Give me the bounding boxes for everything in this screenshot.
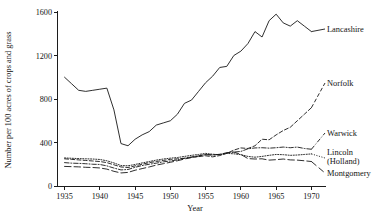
x-axis-title: Year [187,204,203,213]
series-label-warwick: Warwick [327,129,358,138]
x-tick-group: 19351940194519501955196019651970 [56,186,319,201]
y-tick-label: 1200 [36,52,52,61]
series-label-montgomery: Montgomery [327,169,372,178]
x-tick-label: 1945 [127,192,143,201]
x-tick-label: 1960 [233,192,249,201]
series-line-montgomery [65,152,312,173]
y-tick-label: 400 [40,139,52,148]
chart-container: Number per 100 acres of crops and grass … [0,0,390,217]
x-tick-label: 1935 [56,192,72,201]
y-tick-group: 040080012001600 [36,8,58,191]
line-chart: Number per 100 acres of crops and grass … [0,0,390,217]
x-tick-label: 1970 [303,192,319,201]
axes-group [58,11,327,186]
series-label-lancashire: Lancashire [327,25,364,34]
y-axis-title: Number per 100 acres of crops and grass [4,32,13,169]
series-label-lincoln-line2: (Holland) [327,157,360,166]
leader-line-warwick [311,133,325,149]
y-tick-label: 800 [40,95,52,104]
series-label-norfolk: Norfolk [327,79,354,88]
leader-lines-group [311,29,325,173]
x-tick-label: 1965 [268,192,284,201]
x-tick-label: 1950 [162,192,178,201]
leader-line-montgomery [311,162,325,173]
series-group [65,14,312,173]
y-tick-label: 1600 [36,8,52,17]
leader-line-lincoln [311,154,325,158]
series-line-lancashire [65,14,312,146]
leader-line-lancashire [311,29,325,32]
x-tick-label: 1940 [92,192,108,201]
leader-line-norfolk [311,83,325,108]
series-label-lincoln-line1: Lincoln [327,148,354,157]
y-tick-label: 0 [48,182,52,191]
x-tick-label: 1955 [197,192,213,201]
